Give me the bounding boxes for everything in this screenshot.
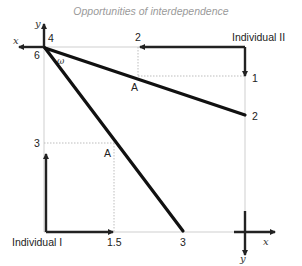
I-tick-x-1-5: 1.5 xyxy=(107,236,122,248)
point-A-upper: A xyxy=(131,81,138,93)
II-tick-y-1: 1 xyxy=(252,72,258,84)
II-tick-x-2: 2 xyxy=(135,31,141,43)
br-y-label: y xyxy=(239,253,246,264)
II-tick-y-2: 2 xyxy=(252,110,258,122)
individual-II-label: Individual II xyxy=(232,31,285,43)
line-omega-to-II xyxy=(45,48,245,115)
point-A-lower: A xyxy=(104,147,111,159)
interdependence-diagram: Opportunities of interdependence x y 4 6… xyxy=(0,0,302,266)
omega-y-label: y xyxy=(34,18,41,29)
br-x-label: x xyxy=(263,236,269,247)
individual-I-label: Individual I xyxy=(12,236,62,248)
diagram-title: Opportunities of interdependence xyxy=(73,5,228,17)
I-tick-x-3: 3 xyxy=(180,236,186,248)
origin-value-4: 4 xyxy=(48,32,54,44)
origin-value-6: 6 xyxy=(34,49,40,61)
omega-x-label: x xyxy=(13,35,19,46)
I-tick-y-3: 3 xyxy=(34,137,40,149)
